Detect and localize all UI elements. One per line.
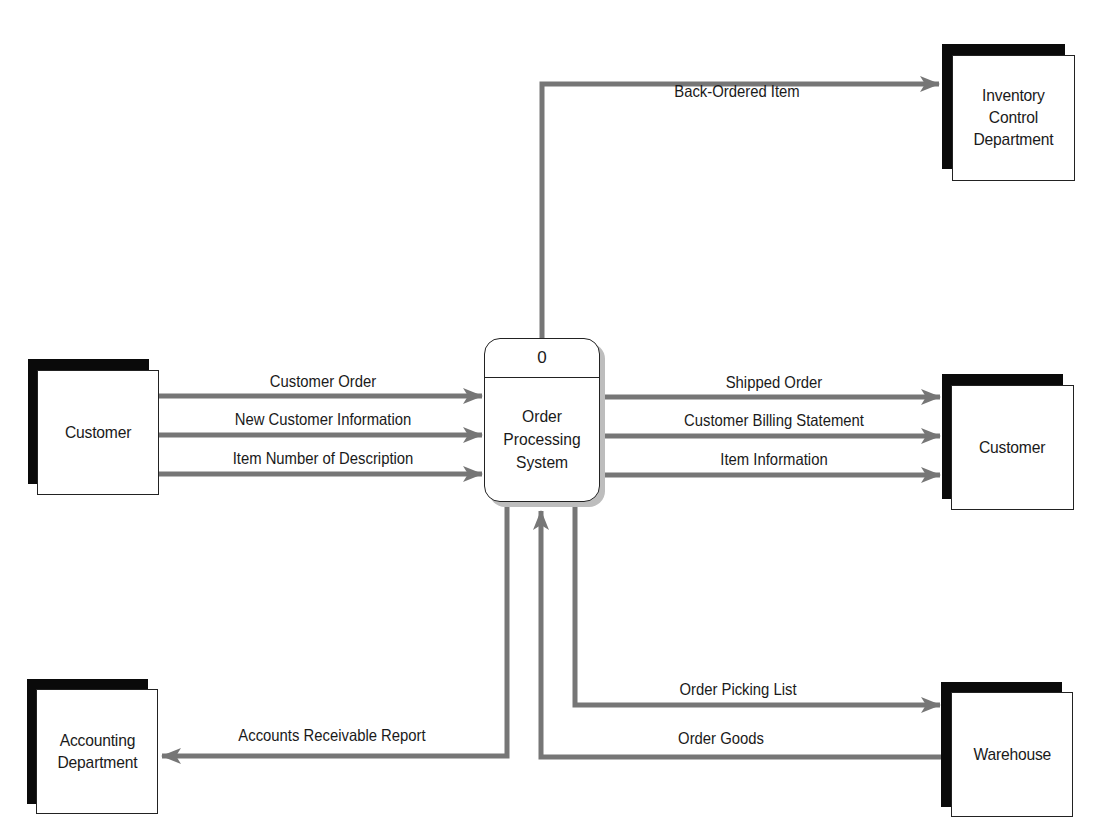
entity-accounting-department[interactable]: Accounting Department [36, 689, 158, 814]
entity-label: Warehouse [973, 744, 1051, 766]
flow-label-order-goods: Order Goods [678, 729, 764, 748]
entity-customer-source[interactable]: Customer [37, 370, 159, 495]
flow-label-customer-billing-statement: Customer Billing Statement [684, 411, 864, 430]
entity-label: Customer [65, 422, 131, 444]
entity-label: Customer [979, 437, 1045, 459]
flow-label-item-number-of-description: Item Number of Description [233, 449, 414, 468]
process-order-processing-system[interactable]: 0 Order Processing System [484, 338, 600, 502]
context-diagram: Inventory Control Department Customer Cu… [0, 0, 1106, 839]
process-name: Order Processing System [503, 405, 580, 474]
flow-label-new-customer-information: New Customer Information [235, 410, 412, 429]
entity-warehouse[interactable]: Warehouse [951, 692, 1073, 817]
flow-label-back-ordered-item: Back-Ordered Item [674, 82, 799, 101]
entity-label: Accounting Department [57, 730, 137, 774]
flow-back-ordered-item-arrow [542, 84, 939, 338]
flow-label-shipped-order: Shipped Order [726, 373, 823, 392]
flow-label-accounts-receivable-report: Accounts Receivable Report [238, 726, 425, 745]
flow-accounts-receivable-arrow [162, 507, 507, 756]
process-id: 0 [485, 339, 599, 378]
flow-order-goods-arrow [541, 511, 941, 757]
process-name-container: Order Processing System [485, 378, 599, 501]
flow-order-picking-list-arrow [575, 507, 940, 705]
entity-label: Inventory Control Department [974, 85, 1054, 151]
flow-label-order-picking-list: Order Picking List [679, 680, 796, 699]
flow-label-item-information: Item Information [720, 450, 827, 469]
flow-label-customer-order: Customer Order [270, 372, 376, 391]
entity-inventory-control-department[interactable]: Inventory Control Department [952, 55, 1075, 181]
entity-customer-sink[interactable]: Customer [951, 385, 1074, 510]
